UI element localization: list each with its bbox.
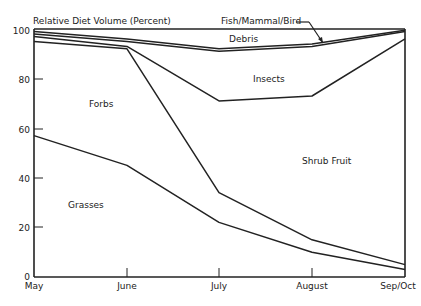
y-ticks: 0 20 40 60 80 100 [13, 26, 43, 282]
series-boundaries [34, 29, 405, 270]
label-shrub-fruit: Shrub Fruit [302, 156, 352, 166]
label-debris: Debris [229, 34, 258, 44]
label-grasses: Grasses [68, 200, 104, 210]
x-tick-label: August [296, 281, 328, 291]
x-ticks: May June July August Sep/Oct [25, 268, 417, 291]
x-tick-label: Sep/Oct [380, 281, 416, 291]
x-tick-label: May [25, 281, 44, 291]
y-tick-label: 100 [13, 26, 30, 36]
stacked-area-chart: Relative Diet Volume (Percent) 0 20 40 6… [0, 0, 421, 306]
y-tick-label: 40 [19, 174, 31, 184]
y-axis-label: Relative Diet Volume (Percent) [33, 16, 171, 26]
x-tick-label: July [210, 281, 228, 291]
y-tick-label: 80 [19, 75, 31, 85]
label-forbs: Forbs [89, 99, 114, 109]
x-tick-label: June [116, 281, 137, 291]
label-fish-mammal-bird: Fish/Mammal/Bird [221, 16, 301, 26]
label-insects: Insects [253, 74, 285, 84]
y-tick-label: 20 [19, 223, 31, 233]
y-tick-label: 60 [19, 125, 31, 135]
